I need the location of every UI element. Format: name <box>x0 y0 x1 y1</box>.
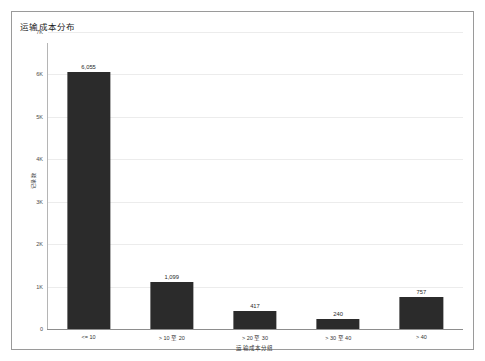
x-tick-label: > 20 至 30 <box>242 334 268 342</box>
bar-slot: 757> 40 <box>380 32 463 329</box>
x-tick-label: > 40 <box>416 334 427 340</box>
bar[interactable] <box>233 311 276 329</box>
y-axis-title: 记录数 <box>29 173 36 189</box>
y-tick-label: 4K <box>36 156 43 162</box>
x-axis-line <box>47 329 463 330</box>
bar[interactable] <box>67 72 110 329</box>
bar-slot: 240> 30 至 40 <box>297 32 380 329</box>
chart-page-frame: 运输成本分布 记录数 01K2K3K4K5K6K7K 6,055<= 101,0… <box>11 11 474 350</box>
y-tick-label: 3K <box>36 199 43 205</box>
y-tick-label: 0 <box>40 326 43 332</box>
bar-value-label: 6,055 <box>81 64 96 70</box>
bar-slot: 6,055<= 10 <box>47 32 130 329</box>
y-tick-label: 6K <box>36 71 43 77</box>
y-tick-label: 5K <box>36 114 43 120</box>
x-tick-label: > 30 至 40 <box>325 334 351 342</box>
y-tick-label: 7K <box>36 29 43 35</box>
x-axis-title: 运输成本分组 <box>236 344 273 352</box>
bar-value-label: 417 <box>250 303 260 309</box>
plot-area: 记录数 01K2K3K4K5K6K7K 6,055<= 101,099> 10 … <box>47 32 463 330</box>
bar[interactable] <box>317 319 360 329</box>
bar-slot: 1,099> 10 至 20 <box>130 32 213 329</box>
y-tick-label: 2K <box>36 241 43 247</box>
bar-value-label: 1,099 <box>165 274 180 280</box>
x-tick-label: > 10 至 20 <box>159 334 185 342</box>
bar-value-label: 757 <box>417 289 427 295</box>
bar-slot: 417> 20 至 30 <box>213 32 296 329</box>
y-tick-label: 1K <box>36 284 43 290</box>
x-tick-label: <= 10 <box>82 334 96 340</box>
bar-value-label: 240 <box>333 311 343 317</box>
chart-title: 运输成本分布 <box>20 20 76 32</box>
bar[interactable] <box>150 282 193 329</box>
bar[interactable] <box>400 297 443 329</box>
